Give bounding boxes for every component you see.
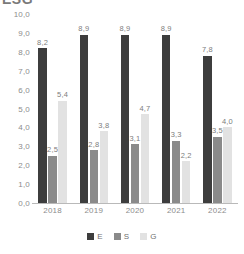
bar-value-label-E-2020: 8,9 [117, 24, 134, 33]
y-axis-tick: 10,0 [0, 10, 30, 19]
bar-value-label-G-2020: 4,7 [137, 104, 154, 113]
y-axis-tick: 7,0 [0, 66, 30, 75]
esg-bar-chart: ESG 10,09,08,07,06,05,04,03,02,01,00,0 8… [0, 0, 244, 254]
legend-swatch-s [114, 233, 121, 240]
y-axis: 10,09,08,07,06,05,04,03,02,01,00,0 [0, 14, 30, 203]
bar-G-2021 [182, 161, 191, 203]
bar-G-2022 [223, 127, 232, 203]
bar-E-2018 [38, 48, 47, 203]
bar-value-label-E-2021: 8,9 [158, 24, 175, 33]
bar-value-label-E-2022: 7,8 [199, 45, 216, 54]
bar-value-label-E-2019: 8,9 [76, 24, 93, 33]
y-axis-tick: 5,0 [0, 104, 30, 113]
chart-legend: ESG [0, 232, 244, 241]
chart-title: ESG [2, 0, 33, 7]
chart-title-clipped: ESG [0, 0, 244, 9]
y-axis-tick: 4,0 [0, 123, 30, 132]
y-axis-tick: 1,0 [0, 180, 30, 189]
legend-item-E[interactable]: E [87, 232, 103, 241]
bar-value-label-E-2018: 8,2 [34, 38, 51, 47]
x-axis-tick-2020: 2020 [114, 206, 155, 215]
legend-label-S: S [124, 232, 130, 241]
bar-E-2020 [121, 35, 130, 203]
bar-E-2019 [80, 35, 89, 203]
x-axis-tick-2021: 2021 [156, 206, 197, 215]
legend-swatch-e [87, 233, 94, 240]
legend-label-E: E [97, 232, 103, 241]
bar-value-label-G-2018: 5,4 [54, 90, 71, 99]
y-axis-tick: 2,0 [0, 161, 30, 170]
x-axis-tick-2018: 2018 [32, 206, 73, 215]
bar-value-label-G-2019: 3,8 [96, 121, 113, 130]
bar-S-2022 [213, 137, 222, 203]
y-axis-tick: 6,0 [0, 85, 30, 94]
bar-G-2018 [58, 101, 67, 203]
bar-S-2018 [48, 156, 57, 203]
bar-S-2020 [131, 144, 140, 203]
plot-area: 8,22,55,48,92,83,88,93,14,78,93,32,27,83… [32, 14, 238, 203]
bar-value-label-S-2021: 3,3 [168, 130, 185, 139]
y-axis-tick: 9,0 [0, 28, 30, 37]
bar-value-label-G-2022: 4,0 [219, 117, 236, 126]
bar-value-label-G-2021: 2,2 [178, 151, 195, 160]
bar-group-2021: 8,93,32,2 [156, 14, 197, 203]
legend-item-G[interactable]: G [140, 232, 156, 241]
bar-G-2020 [141, 114, 150, 203]
bar-group-2022: 7,83,54,0 [197, 14, 238, 203]
x-axis-tick-2019: 2019 [73, 206, 114, 215]
x-axis-tick-2022: 2022 [197, 206, 238, 215]
x-axis-line [32, 203, 238, 204]
legend-swatch-g [140, 233, 147, 240]
y-axis-tick: 8,0 [0, 47, 30, 56]
legend-item-S[interactable]: S [114, 232, 130, 241]
bar-group-2019: 8,92,83,8 [73, 14, 114, 203]
y-axis-tick: 3,0 [0, 142, 30, 151]
bar-group-2020: 8,93,14,7 [114, 14, 155, 203]
bar-S-2019 [90, 150, 99, 203]
bar-G-2019 [100, 131, 109, 203]
legend-label-G: G [150, 232, 156, 241]
bar-E-2021 [162, 35, 171, 203]
y-axis-tick: 0,0 [0, 199, 30, 208]
bar-group-2018: 8,22,55,4 [32, 14, 73, 203]
